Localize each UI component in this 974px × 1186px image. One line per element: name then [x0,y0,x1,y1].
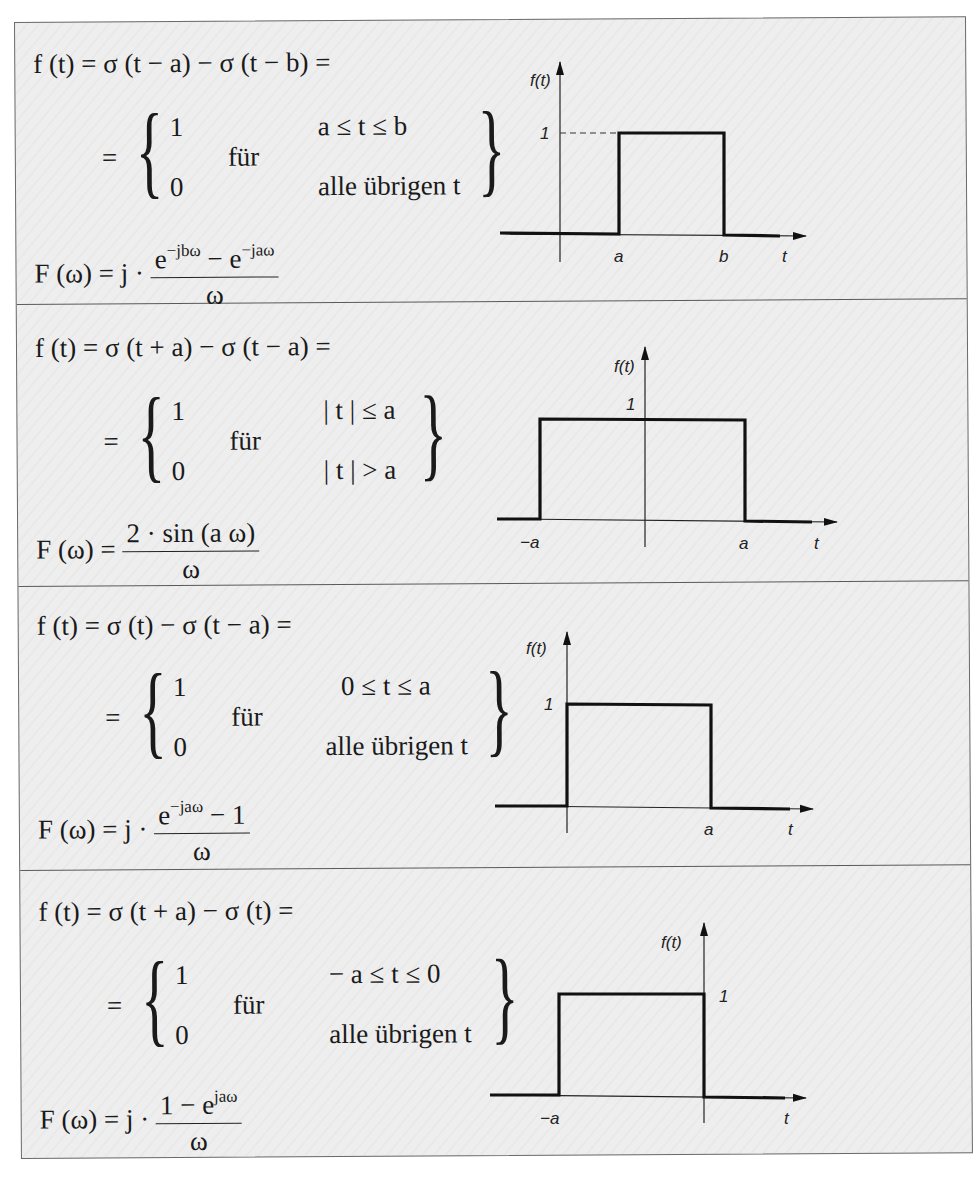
transform-line: F (ω) = j · e−jbω − e−jaω ω [34,241,278,309]
formula-block: f (t) = σ (t) − σ (t − a) = = { 1 0 für … [37,610,487,613]
condition-zero: alle übrigen t [325,732,468,760]
fraction-numerator: 1 − ejaω [156,1088,242,1125]
transform-fraction: 1 − ejaω ω [156,1088,242,1156]
value-zero: 0 [172,458,186,485]
formula-block: f (t) = σ (t + a) − σ (t) = = { 1 0 für … [38,896,488,899]
value-one: 1 [171,398,185,425]
fraction-numerator: 2 · sin (a ω) [122,520,259,553]
fraction-denominator: ω [156,1124,242,1156]
right-brace-icon: } [419,380,447,484]
fraction-numerator: e−jaω − 1 [154,798,249,835]
transform-fraction: e−jaω − 1 ω [154,798,250,866]
equals-sign: = [107,992,122,1019]
condition-zero: alle übrigen t [318,172,461,200]
right-brace-icon: } [477,96,505,200]
value-zero: 0 [173,734,187,761]
transform-line: F (ω) = j · 1 − ejaω ω [40,1088,242,1156]
condition-one: − a ≤ t ≤ 0 [329,960,441,988]
transform-line: F (ω) = 2 · sin (a ω) ω [36,520,259,584]
fraction-numerator: e−jbω − e−jaω [151,241,279,278]
definition-line: f (t) = σ (t − a) − σ (t − b) = [33,49,330,78]
piecewise-definition: = { 1 0 für 0 ≤ t ≤ a alle übrigen t } [105,666,486,768]
transform-lhs: F (ω) = j · [34,258,144,289]
definition-line: f (t) = σ (t + a) − σ (t) = [38,897,293,926]
transform-lhs: F (ω) = j · [40,1104,150,1135]
fuer-label: für [229,427,261,454]
table-row-rect-a-b: f (t) = σ (t − a) − σ (t − b) = = { 1 0 … [15,17,967,305]
definition-line: f (t) = σ (t + a) − σ (t − a) = [35,333,331,362]
piecewise-definition: = { 1 0 für − a ≤ t ≤ 0 alle übrigen t } [107,954,488,1056]
condition-zero: alle übrigen t [329,1020,472,1048]
fraction-denominator: ω [154,834,249,866]
equals-sign: = [102,144,117,171]
piecewise-definition: = { 1 0 für | t | ≤ a | t | > a } [103,390,484,492]
left-brace-icon: { [139,658,167,762]
definition-line: f (t) = σ (t) − σ (t − a) = [37,611,292,640]
transform-line: F (ω) = j · e−jaω − 1 ω [38,798,250,866]
fuer-label: für [231,703,263,730]
condition-zero: | t | > a [324,457,397,484]
value-one: 1 [170,114,184,141]
value-one: 1 [175,962,189,989]
right-brace-icon: } [491,944,519,1048]
transform-fraction: 2 · sin (a ω) ω [122,520,259,584]
condition-one: | t | ≤ a [323,397,395,424]
fuer-label: für [228,144,260,171]
equals-sign: = [103,428,118,455]
transform-lhs: F (ω) = [36,534,116,564]
value-one: 1 [173,674,187,701]
value-zero: 0 [170,174,184,201]
table-row-rect-minus-a-0: f (t) = σ (t + a) − σ (t) = = { 1 0 für … [20,865,972,1160]
formula-block: f (t) = σ (t − a) − σ (t − b) = = { 1 0 … [33,48,483,51]
condition-one: a ≤ t ≤ b [318,113,408,141]
value-zero: 0 [175,1022,189,1049]
left-brace-icon: { [137,382,165,486]
right-brace-icon: } [485,656,513,760]
transform-lhs: F (ω) = j · [38,814,148,845]
fraction-denominator: ω [122,552,259,584]
equals-sign: = [105,704,120,731]
left-brace-icon: { [135,98,163,202]
transform-fraction: e−jbω − e−jaω ω [151,241,279,309]
formula-block: f (t) = σ (t + a) − σ (t − a) = = { 1 0 … [35,332,485,335]
fourier-transform-table: f (t) = σ (t − a) − σ (t − b) = = { 1 0 … [14,16,973,1159]
condition-one: 0 ≤ t ≤ a [341,672,431,700]
left-brace-icon: { [141,946,169,1050]
fuer-label: für [233,991,265,1018]
table-row-rect-0-a: f (t) = σ (t) − σ (t − a) = = { 1 0 für … [18,581,970,871]
table-row-rect-symmetric: f (t) = σ (t + a) − σ (t − a) = = { 1 0 … [17,299,969,587]
piecewise-definition: = { 1 0 für a ≤ t ≤ b alle übrigen t } [102,106,483,208]
